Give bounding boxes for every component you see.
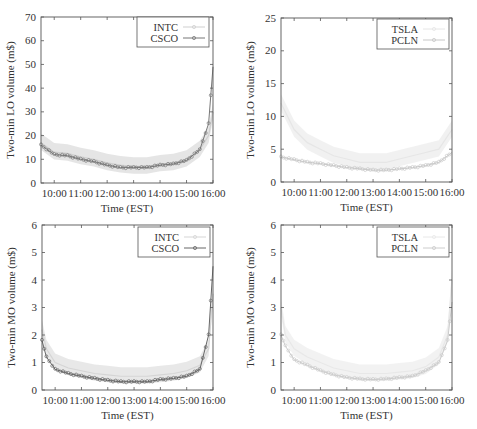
y-tick-label: 15 — [265, 77, 277, 89]
x-tick-label: 10:00 — [43, 394, 69, 406]
x-axis-label: Time (EST) — [340, 409, 393, 422]
y-tick-label: 4 — [271, 274, 277, 286]
chart-svg: 051015202510:0011:0012:0013:0014:0015:00… — [240, 0, 477, 215]
x-tick-label: 15:00 — [174, 187, 200, 199]
x-tick-label: 16:00 — [200, 394, 226, 406]
y-axis-label: Two-min MO volume (m$) — [244, 247, 257, 368]
x-tick-label: 15:00 — [413, 186, 439, 198]
chart-top-right: 051015202510:0011:0012:0013:0014:0015:00… — [240, 0, 477, 215]
chart-svg: 01020304050607010:0011:0012:0013:0014:00… — [0, 0, 240, 215]
y-axis-label: Two-min LO volume (m$) — [244, 41, 257, 159]
y-tick-label: 20 — [265, 44, 277, 56]
legend-label-intc: INTC — [154, 22, 179, 33]
y-tick-label: 4 — [32, 274, 38, 286]
x-tick-label: 14:00 — [148, 187, 174, 199]
x-tick-label: 15:00 — [174, 394, 200, 406]
x-tick-label: 10:00 — [282, 394, 308, 406]
y-tick-label: 0 — [32, 384, 38, 396]
y-tick-label: 10 — [25, 153, 37, 165]
y-tick-label: 0 — [271, 176, 277, 188]
y-tick-label: 2 — [32, 329, 38, 341]
legend: TSLAPCLN — [377, 19, 449, 49]
legend-label-csco: CSCO — [151, 33, 179, 44]
legend: INTCCSCO — [138, 227, 210, 257]
y-tick-label: 20 — [25, 129, 37, 141]
x-axis-label: Time (EST) — [101, 202, 154, 215]
x-tick-label: 13:00 — [361, 186, 387, 198]
chart-bottom-right: 012345610:0011:0012:0013:0014:0015:0016:… — [240, 215, 477, 429]
legend: INTCCSCO — [137, 17, 209, 47]
y-tick-label: 5 — [32, 246, 38, 258]
x-tick-label: 10:00 — [282, 186, 308, 198]
y-tick-label: 3 — [271, 301, 277, 313]
x-tick-label: 11:00 — [308, 394, 333, 406]
x-tick-label: 11:00 — [308, 186, 333, 198]
x-tick-label: 16:00 — [200, 187, 226, 199]
series-tsla — [281, 94, 452, 169]
x-tick-label: 12:00 — [334, 186, 360, 198]
x-tick-label: 13:00 — [121, 187, 147, 199]
chart-svg: 012345610:0011:0012:0013:0014:0015:0016:… — [0, 215, 240, 429]
legend-label-tsla: TSLA — [392, 232, 419, 243]
y-tick-label: 5 — [271, 246, 277, 258]
legend: TSLAPCLN — [377, 227, 449, 257]
y-tick-label: 25 — [265, 12, 277, 24]
y-tick-label: 40 — [25, 82, 37, 94]
y-tick-label: 0 — [271, 384, 277, 396]
legend-label-pcln: PCLN — [391, 243, 418, 254]
x-tick-label: 11:00 — [68, 187, 93, 199]
legend-label-pcln: PCLN — [391, 35, 418, 46]
legend-label-intc: INTC — [155, 232, 180, 243]
chart-svg: 012345610:0011:0012:0013:0014:0015:0016:… — [240, 215, 477, 429]
legend-label-csco: CSCO — [152, 243, 180, 254]
y-tick-label: 5 — [271, 143, 277, 155]
y-tick-label: 50 — [25, 58, 37, 70]
y-tick-label: 60 — [25, 34, 37, 46]
x-axis-label: Time (EST) — [340, 201, 393, 214]
x-tick-label: 11:00 — [69, 394, 94, 406]
series-intc — [42, 285, 213, 384]
y-tick-label: 70 — [25, 11, 37, 23]
y-tick-label: 1 — [271, 356, 277, 368]
x-tick-label: 15:00 — [413, 394, 439, 406]
y-tick-label: 6 — [271, 219, 277, 231]
legend-label-tsla: TSLA — [392, 24, 419, 35]
x-tick-label: 14:00 — [148, 394, 174, 406]
y-tick-label: 6 — [32, 219, 38, 231]
y-tick-label: 30 — [25, 105, 37, 117]
y-tick-label: 10 — [265, 110, 277, 122]
y-tick-label: 2 — [271, 329, 277, 341]
x-tick-label: 14:00 — [387, 394, 413, 406]
y-axis-label: Two-min MO volume (m$) — [5, 247, 18, 368]
series-tsla — [281, 271, 452, 381]
x-tick-label: 13:00 — [361, 394, 387, 406]
y-axis-label: Two-min LO volume (m$) — [4, 41, 17, 159]
x-tick-label: 16:00 — [439, 394, 465, 406]
x-tick-label: 16:00 — [439, 186, 465, 198]
chart-bottom-left: 012345610:0011:0012:0013:0014:0015:0016:… — [0, 215, 240, 429]
x-tick-label: 12:00 — [95, 394, 121, 406]
y-tick-label: 3 — [32, 301, 38, 313]
series-intc — [41, 103, 213, 174]
y-tick-label: 0 — [31, 177, 37, 189]
x-tick-label: 13:00 — [122, 394, 148, 406]
y-tick-label: 1 — [32, 356, 38, 368]
x-tick-label: 12:00 — [95, 187, 121, 199]
chart-top-left: 01020304050607010:0011:0012:0013:0014:00… — [0, 0, 240, 215]
x-tick-label: 10:00 — [42, 187, 68, 199]
x-tick-label: 14:00 — [387, 186, 413, 198]
x-axis-label: Time (EST) — [101, 409, 154, 422]
x-tick-label: 12:00 — [334, 394, 360, 406]
